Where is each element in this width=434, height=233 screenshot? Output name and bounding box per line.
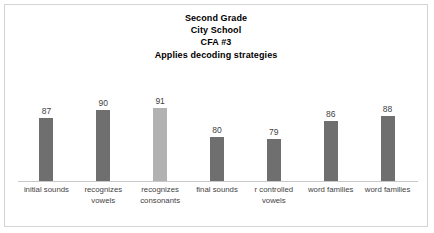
bar-group: 86 [302,79,359,181]
category-label: recognizes consonants [132,185,189,206]
category-label: word families [302,185,359,196]
bar-group: 90 [75,79,132,181]
bar-group: 91 [132,79,189,181]
bar-value-label: 79 [269,127,278,137]
category-label: recognizes vowels [75,185,132,206]
category-label: initial sounds [18,185,75,196]
bar-value-label: 80 [212,125,221,135]
bar-value-label: 87 [42,106,51,116]
bar-value-label: 90 [99,98,108,108]
bar-group: 88 [359,79,416,181]
bar-group: 80 [189,79,246,181]
bar[interactable] [267,139,281,181]
bar-value-label: 88 [383,104,392,114]
bar[interactable] [381,116,395,181]
bar[interactable] [39,118,53,181]
chart-title-line-2: City School [5,24,427,36]
chart-title-line-4: Applies decoding strategies [5,49,427,61]
bar[interactable] [210,137,224,181]
category-label: word families [359,185,416,196]
chart-frame: Second Grade City School CFA #3 Applies … [4,4,428,227]
plot-area: 87909180798688 [18,79,416,181]
category-axis-line [18,181,418,182]
bar[interactable] [96,110,110,181]
chart-title: Second Grade City School CFA #3 Applies … [5,12,427,61]
chart-title-line-3: CFA #3 [5,36,427,48]
bar-value-label: 91 [155,96,164,106]
bar[interactable] [153,108,167,181]
bar[interactable] [324,121,338,181]
chart-title-line-1: Second Grade [5,12,427,24]
category-label: r controlled vowels [245,185,302,206]
bar-group: 79 [245,79,302,181]
bar-group: 87 [18,79,75,181]
bar-value-label: 86 [326,109,335,119]
category-label: final sounds [189,185,246,196]
